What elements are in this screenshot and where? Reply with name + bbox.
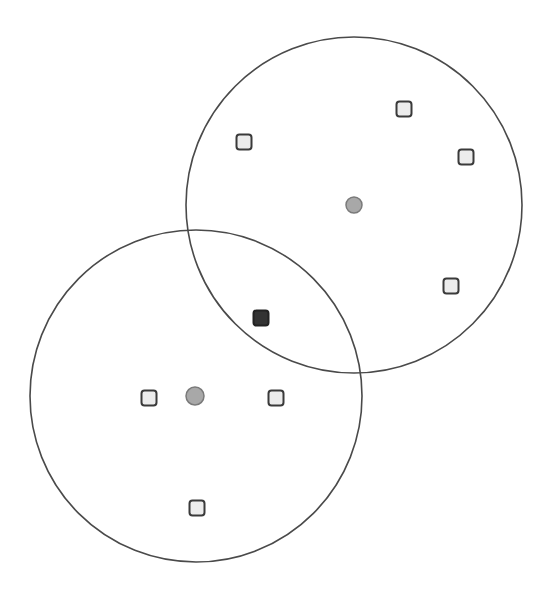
- background: [0, 0, 547, 594]
- data-point-square: [142, 391, 157, 406]
- lower-left-cluster-centroid-dot: [186, 387, 204, 405]
- data-point-square: [459, 150, 474, 165]
- data-point-square: [397, 102, 412, 117]
- data-point-square: [269, 391, 284, 406]
- data-point-square: [444, 279, 459, 294]
- highlighted-overlap-point: [254, 311, 269, 326]
- data-point-square: [190, 501, 205, 516]
- data-point-square: [237, 135, 252, 150]
- upper-right-cluster-centroid-dot: [346, 197, 362, 213]
- cluster-diagram: [0, 0, 547, 594]
